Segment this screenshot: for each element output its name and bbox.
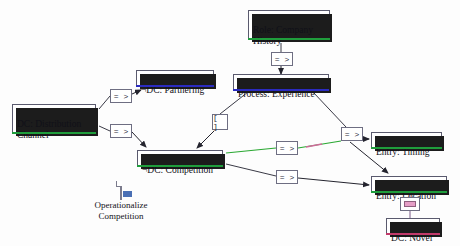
- doc-item-caption: Operationalize Competition: [78, 200, 164, 222]
- edge-competition-op-to-competition: [132, 132, 146, 147]
- node-dc-partnering[interactable]: ¬DC: Partnering: [136, 70, 214, 87]
- node-dc-novel[interactable]: DC: Novel: [386, 218, 440, 235]
- node-label: Entry: Timing: [376, 147, 430, 157]
- operator-implies-competition[interactable]: = >: [110, 124, 132, 138]
- selected-swatch-icon: [404, 201, 416, 207]
- node-label: ¬DC: Partnering: [141, 85, 204, 95]
- operator-implies-timing-mid[interactable]: = >: [276, 141, 298, 155]
- operator-bracket[interactable]: [ ]: [212, 114, 228, 130]
- node-dc-distribution-channel[interactable]: DC: Distribution Channel: [12, 104, 96, 134]
- edge-location-op-to-entry-location: [298, 178, 369, 185]
- edge-distribution-to-competition-op: [99, 126, 110, 131]
- operator-glyph: [ ]: [213, 113, 227, 131]
- operator-glyph: = >: [345, 130, 359, 139]
- node-role-company-history[interactable]: Role: Company History: [248, 10, 330, 40]
- operator-implies-location[interactable]: = >: [276, 170, 298, 184]
- node-entry-location[interactable]: Entry: Location: [371, 176, 447, 193]
- node-label: Process: Experience: [238, 89, 315, 99]
- edge-bracket-to-competition: [197, 131, 214, 148]
- edge-process-to-timing-top-op: [313, 92, 346, 127]
- operator-implies-partnering[interactable]: = >: [110, 89, 132, 103]
- node-process-experience[interactable]: Process: Experience: [233, 74, 329, 91]
- operator-glyph: = >: [280, 144, 294, 153]
- operator-equals-novel[interactable]: [400, 197, 420, 211]
- node-label: DC: Novel: [391, 233, 432, 243]
- operator-glyph: = >: [114, 92, 128, 101]
- node-label: ¬DC: Competition: [142, 165, 213, 175]
- doc-item-operationalize-competition[interactable]: Operationalize Competition: [78, 182, 164, 222]
- edge-competition-to-location-op: [226, 164, 276, 176]
- operator-implies-timing-top[interactable]: = >: [341, 127, 363, 141]
- operator-implies-role-process[interactable]: = >: [271, 52, 293, 66]
- document-icon: [120, 181, 122, 200]
- edge-distribution-to-partnering-op: [99, 96, 110, 109]
- edge-partnering-op-to-partnering: [132, 90, 141, 94]
- node-entry-timing[interactable]: Entry: Timing: [371, 132, 442, 149]
- edge-timing-highlight-pink-segment: [306, 144, 322, 147]
- diagram-canvas[interactable]: Role: Company History ¬DC: Partnering Pr…: [0, 0, 460, 246]
- operator-glyph: = >: [275, 55, 289, 64]
- operator-glyph: = >: [280, 173, 294, 182]
- node-dc-competition[interactable]: ¬DC: Competition: [137, 150, 223, 167]
- edge-competition-to-timing-op: [226, 148, 276, 153]
- operator-glyph: = >: [114, 127, 128, 136]
